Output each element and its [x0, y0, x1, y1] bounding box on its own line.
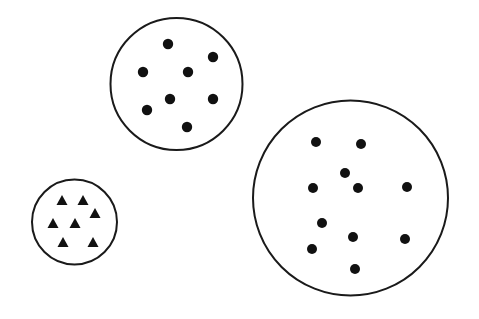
mark-dot-2-2: [340, 168, 350, 178]
mark-dot-2-3: [308, 183, 318, 193]
mark-dot-2-10: [350, 264, 360, 274]
mark-dot-2-0: [311, 137, 321, 147]
mark-dot-2-1: [356, 139, 366, 149]
group-large-circle-dots: [253, 101, 448, 296]
set-outline-large-circle-dots: [253, 101, 448, 296]
mark-dot-2-8: [400, 234, 410, 244]
mark-dot-0-2: [138, 67, 148, 77]
mark-dot-0-5: [208, 94, 218, 104]
group-small-circle-triangles: [32, 180, 117, 265]
mark-dot-0-6: [142, 105, 152, 115]
set-outline-top-circle-dots: [111, 18, 243, 150]
mark-dot-2-4: [353, 183, 363, 193]
mark-dot-2-6: [317, 218, 327, 228]
mark-dot-0-7: [182, 122, 192, 132]
mark-dot-2-7: [348, 232, 358, 242]
mark-dot-0-1: [208, 52, 218, 62]
mark-dot-0-4: [165, 94, 175, 104]
group-top-circle-dots: [111, 18, 243, 150]
mark-dot-0-0: [163, 39, 173, 49]
mark-dot-2-9: [307, 244, 317, 254]
set-diagram: [0, 0, 479, 319]
figure-canvas: [0, 0, 479, 319]
mark-dot-0-3: [183, 67, 193, 77]
mark-dot-2-5: [402, 182, 412, 192]
